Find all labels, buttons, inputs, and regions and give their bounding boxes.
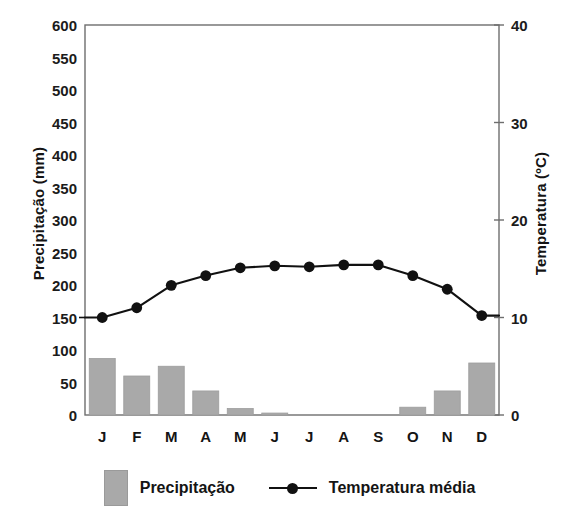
plot-area xyxy=(0,0,579,529)
legend-label-precipitation: Precipitação xyxy=(140,479,235,497)
legend-swatch-precipitation xyxy=(104,470,128,506)
legend-label-temperature: Temperatura média xyxy=(329,479,475,497)
legend-line-icon xyxy=(269,481,317,495)
temperature-markers xyxy=(97,259,487,322)
temperature-line xyxy=(85,265,499,318)
plot-frame xyxy=(85,25,499,415)
legend-item-precipitation: Precipitação xyxy=(104,470,235,506)
climograph-figure: Precipitação (mm) Temperatura (ºC) 60055… xyxy=(0,0,579,529)
precipitation-bars xyxy=(89,358,495,415)
legend-dot-marker xyxy=(287,483,298,494)
legend-item-temperature: Temperatura média xyxy=(269,479,475,497)
chart-legend: Precipitação Temperatura média xyxy=(0,470,579,506)
axis-tick-marks xyxy=(79,25,504,415)
